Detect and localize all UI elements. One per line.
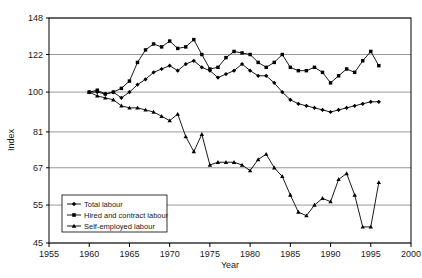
data-point-marker (120, 87, 123, 90)
legend-item-label: Self-employed labour (84, 222, 155, 231)
data-point-marker (176, 47, 179, 50)
y-tick-label: 122 (28, 50, 43, 60)
data-point-marker (321, 71, 324, 74)
data-point-marker (128, 79, 131, 82)
x-tick-label: 1990 (321, 249, 341, 259)
labour-index-line-chart: 14812210081675545 1955196019651970197519… (0, 0, 422, 278)
legend-item-label: Total labour (84, 200, 123, 209)
y-tick-label: 100 (28, 87, 43, 97)
data-point-marker (313, 66, 316, 69)
data-point-marker (184, 45, 187, 48)
data-point-marker (369, 50, 372, 53)
data-point-marker (208, 67, 211, 70)
data-point-marker (224, 56, 227, 59)
x-tick-label: 1995 (361, 249, 381, 259)
data-point-marker (256, 61, 259, 64)
y-axis-title: Index (6, 128, 16, 151)
data-point-marker (104, 92, 107, 95)
data-point-marker (112, 90, 115, 93)
data-point-marker (136, 61, 139, 64)
data-point-marker (160, 45, 163, 48)
y-tick-label: 67 (33, 163, 43, 173)
x-tick-label: 1985 (280, 249, 300, 259)
chart-figure: 14812210081675545 1955196019651970197519… (0, 0, 422, 278)
legend-marker-square-icon (72, 213, 76, 217)
data-point-marker (144, 48, 147, 51)
data-point-marker (168, 39, 171, 42)
data-point-marker (96, 88, 99, 91)
x-tick-label: 1975 (200, 249, 220, 259)
x-tick-label: 2000 (401, 249, 421, 259)
data-point-marker (240, 51, 243, 54)
data-point-marker (248, 53, 251, 56)
legend-item-label: Hired and contract labour (84, 211, 169, 220)
data-point-marker (152, 42, 155, 45)
data-point-marker (289, 66, 292, 69)
data-point-marker (345, 67, 348, 70)
chart-legend: Total labourHired and contract labourSel… (62, 195, 169, 232)
data-point-marker (192, 38, 195, 41)
data-point-marker (361, 59, 364, 62)
x-tick-label: 1980 (240, 249, 260, 259)
data-point-marker (216, 66, 219, 69)
x-tick-label: 1955 (39, 249, 59, 259)
x-tick-label: 1965 (119, 249, 139, 259)
data-point-marker (329, 81, 332, 84)
y-tick-label: 148 (28, 13, 43, 23)
data-point-marker (273, 61, 276, 64)
x-tick-label: 1970 (160, 249, 180, 259)
y-tick-label: 55 (33, 200, 43, 210)
data-point-marker (297, 69, 300, 72)
y-tick-label: 81 (33, 127, 43, 137)
data-point-marker (200, 53, 203, 56)
data-point-marker (337, 74, 340, 77)
y-tick-label: 45 (33, 238, 43, 248)
chart-background (0, 0, 422, 278)
data-point-marker (353, 71, 356, 74)
x-tick-label: 1960 (79, 249, 99, 259)
data-point-marker (281, 53, 284, 56)
data-point-marker (377, 64, 380, 67)
data-point-marker (305, 69, 308, 72)
x-axis-title: Year (221, 260, 239, 270)
data-point-marker (264, 66, 267, 69)
data-point-marker (232, 50, 235, 53)
